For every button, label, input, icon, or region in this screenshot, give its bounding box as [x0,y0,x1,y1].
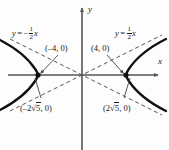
asymptote-right-eq-y: y [115,28,119,38]
asymptote-left-equation: y=−12x [12,26,38,42]
leader-line-vertex-left [41,55,59,74]
asymptote-left-eq-minus: − [24,28,29,38]
asymptote-left-eq-fraction: 12 [29,26,34,42]
focus-left-radical: √5 [31,104,40,113]
asymptote-left-eq-x: x [34,28,38,38]
vertex-left-point [35,72,40,77]
asymptote-right-equation: y=12x [115,26,136,42]
focus-left-label-open: (–2 [20,103,31,113]
vertex-right-point [123,72,128,77]
focus-right-label: (2√5, 0) [103,104,131,113]
asymptote-left-eq-denominator: 2 [29,34,34,41]
asymptote-left-eq-equals: = [17,28,22,38]
asymptote-right-eq-equals: = [120,28,125,38]
asymptote-left-eq-y: y [12,28,16,38]
focus-right-radical: √5 [110,104,119,113]
leader-line-focus-left [35,78,41,98]
hyperbola-plot-canvas [0,0,169,150]
vertex-right-label: (4, 0) [91,44,109,53]
focus-left-label: (–2√5, 0) [20,104,52,113]
y-axis-label: y [88,5,92,14]
vertex-left-label: (–4, 0) [45,44,68,53]
asymptote-right-eq-x: x [132,28,136,38]
asymptote-right-eq-fraction: 12 [127,26,132,42]
asymptote-right-eq-denominator: 2 [127,34,132,41]
focus-right-label-open: (2 [103,103,110,113]
leader-line-focus-right [124,78,130,98]
hyperbola-figure: x y y=−12x y=12x (–4, 0) (4, 0) (–2√5, 0… [0,0,169,150]
leader-line-vertex-right [107,55,124,74]
asymptote-positive-slope [10,35,162,111]
x-axis-label: x [158,57,162,66]
focus-left-label-close: , 0) [41,103,52,113]
focus-right-label-close: , 0) [119,103,130,113]
